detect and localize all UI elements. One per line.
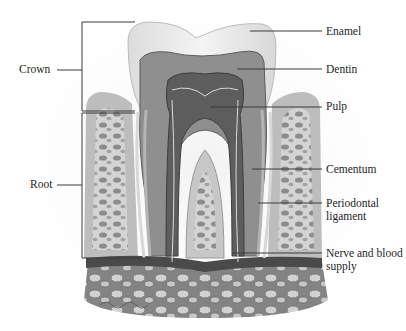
label-crown: Crown — [19, 63, 50, 76]
left-bone — [92, 108, 128, 250]
right-bone — [278, 108, 314, 250]
label-enamel: Enamel — [326, 25, 361, 38]
label-nerve-and-blood-supply: Nerve and blood supply — [326, 247, 404, 273]
tooth-diagram: Crown Root Enamel Dentin Pulp Cementum P… — [0, 0, 406, 331]
label-dentin: Dentin — [326, 63, 357, 76]
label-pulp: Pulp — [326, 100, 347, 113]
label-root: Root — [30, 178, 52, 191]
label-cementum: Cementum — [326, 163, 376, 176]
label-periodontal-ligament: Periodontal ligament — [326, 197, 396, 223]
